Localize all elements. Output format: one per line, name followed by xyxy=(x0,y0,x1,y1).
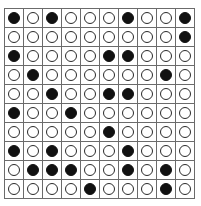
empty-circle-icon xyxy=(46,126,58,138)
grid-cell xyxy=(176,66,195,85)
grid-cell xyxy=(157,180,176,199)
empty-circle-icon xyxy=(103,107,115,119)
filled-circle-icon xyxy=(122,88,134,100)
empty-circle-icon xyxy=(84,12,96,24)
empty-circle-icon xyxy=(141,88,153,100)
empty-circle-icon xyxy=(103,31,115,43)
grid-cell xyxy=(5,9,24,28)
grid-cell xyxy=(100,47,119,66)
empty-circle-icon xyxy=(160,50,172,62)
empty-circle-icon xyxy=(179,88,191,100)
empty-circle-icon xyxy=(141,12,153,24)
empty-circle-icon xyxy=(141,183,153,195)
filled-circle-icon xyxy=(122,145,134,157)
grid-cell xyxy=(81,28,100,47)
grid-cell xyxy=(138,161,157,180)
grid-cell xyxy=(81,85,100,104)
filled-circle-icon xyxy=(46,145,58,157)
grid-cell xyxy=(157,47,176,66)
grid-cell xyxy=(119,47,138,66)
empty-circle-icon xyxy=(8,164,20,176)
empty-circle-icon xyxy=(46,69,58,81)
empty-circle-icon xyxy=(160,12,172,24)
filled-circle-icon xyxy=(179,12,191,24)
grid-cell xyxy=(81,123,100,142)
grid-cell xyxy=(62,123,81,142)
grid-cell xyxy=(24,9,43,28)
grid-cell xyxy=(62,142,81,161)
grid-cell xyxy=(138,66,157,85)
empty-circle-icon xyxy=(65,50,77,62)
empty-circle-icon xyxy=(27,126,39,138)
grid-cell xyxy=(24,104,43,123)
grid-cell xyxy=(81,47,100,66)
empty-circle-icon xyxy=(27,50,39,62)
grid-cell xyxy=(43,161,62,180)
grid-cell xyxy=(176,180,195,199)
empty-circle-icon xyxy=(84,88,96,100)
empty-circle-icon xyxy=(122,183,134,195)
filled-circle-icon xyxy=(103,50,115,62)
grid-cell xyxy=(157,123,176,142)
grid-cell xyxy=(138,142,157,161)
filled-circle-icon xyxy=(122,50,134,62)
grid-cell xyxy=(24,142,43,161)
grid-cell xyxy=(5,161,24,180)
empty-circle-icon xyxy=(65,126,77,138)
grid-cell xyxy=(100,66,119,85)
filled-circle-icon xyxy=(8,50,20,62)
filled-circle-icon xyxy=(27,164,39,176)
empty-circle-icon xyxy=(160,88,172,100)
grid-cell xyxy=(24,123,43,142)
grid-cell xyxy=(157,28,176,47)
grid-cell xyxy=(62,28,81,47)
grid-cell xyxy=(176,161,195,180)
grid-cell xyxy=(43,85,62,104)
empty-circle-icon xyxy=(27,183,39,195)
empty-circle-icon xyxy=(65,183,77,195)
filled-circle-icon xyxy=(103,126,115,138)
filled-circle-icon xyxy=(179,31,191,43)
grid-cell xyxy=(138,123,157,142)
empty-circle-icon xyxy=(122,31,134,43)
grid-cell xyxy=(5,66,24,85)
empty-circle-icon xyxy=(65,145,77,157)
grid-cell xyxy=(119,9,138,28)
grid-cell xyxy=(157,66,176,85)
empty-circle-icon xyxy=(65,12,77,24)
empty-circle-icon xyxy=(160,145,172,157)
grid-cell xyxy=(5,85,24,104)
grid-cell xyxy=(81,142,100,161)
empty-circle-icon xyxy=(160,126,172,138)
empty-circle-icon xyxy=(179,69,191,81)
filled-circle-icon xyxy=(160,164,172,176)
filled-circle-icon xyxy=(8,107,20,119)
grid-cell xyxy=(138,28,157,47)
grid-cell xyxy=(24,161,43,180)
grid-cell xyxy=(62,104,81,123)
empty-circle-icon xyxy=(65,31,77,43)
grid-cell xyxy=(176,104,195,123)
grid-cell xyxy=(176,47,195,66)
grid-cell xyxy=(100,142,119,161)
empty-circle-icon xyxy=(84,107,96,119)
grid-cell xyxy=(138,9,157,28)
filled-circle-icon xyxy=(8,12,20,24)
empty-circle-icon xyxy=(46,183,58,195)
empty-circle-icon xyxy=(46,31,58,43)
grid-cell xyxy=(100,123,119,142)
empty-circle-icon xyxy=(179,145,191,157)
empty-circle-icon xyxy=(179,183,191,195)
grid-cell xyxy=(5,47,24,66)
empty-circle-icon xyxy=(84,145,96,157)
grid-cell xyxy=(24,66,43,85)
grid-cell xyxy=(100,104,119,123)
empty-circle-icon xyxy=(46,107,58,119)
grid-cell xyxy=(157,142,176,161)
filled-circle-icon xyxy=(46,12,58,24)
empty-circle-icon xyxy=(46,50,58,62)
empty-circle-icon xyxy=(84,164,96,176)
empty-circle-icon xyxy=(27,31,39,43)
grid-cell xyxy=(62,180,81,199)
filled-circle-icon xyxy=(65,164,77,176)
